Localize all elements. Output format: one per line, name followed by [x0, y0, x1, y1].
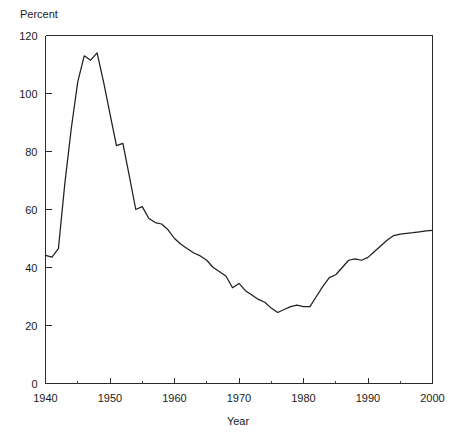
y-tick-label: 60	[25, 204, 37, 216]
y-axis-title: Percent	[20, 8, 58, 20]
y-tick-label: 40	[25, 262, 37, 274]
x-tick-label: 1950	[98, 392, 122, 404]
x-axis-title: Year	[227, 415, 250, 427]
y-tick-label: 100	[19, 88, 37, 100]
x-tick-label: 1940	[33, 392, 57, 404]
chart-figure: Percent 020406080100120 1940195019601970…	[0, 0, 458, 443]
x-tick-label: 2000	[420, 392, 444, 404]
y-tick-label: 80	[25, 146, 37, 158]
x-tick-group	[78, 378, 401, 384]
series-line	[46, 53, 433, 313]
y-tick-label: 0	[31, 378, 37, 390]
y-tick-label: 120	[19, 30, 37, 42]
y-tick-label: 20	[25, 320, 37, 332]
x-tick-label-group: 1940195019601970198019902000	[33, 392, 444, 404]
x-tick-label: 1970	[227, 392, 251, 404]
y-tick-label-group: 020406080100120	[19, 30, 37, 390]
data-series-group	[46, 53, 433, 313]
x-tick-label: 1990	[356, 392, 380, 404]
axes-group	[46, 36, 433, 384]
x-tick-label: 1980	[291, 392, 315, 404]
line-chart: Percent 020406080100120 1940195019601970…	[0, 0, 458, 443]
y-tick-group	[46, 94, 52, 326]
x-tick-label: 1960	[162, 392, 186, 404]
